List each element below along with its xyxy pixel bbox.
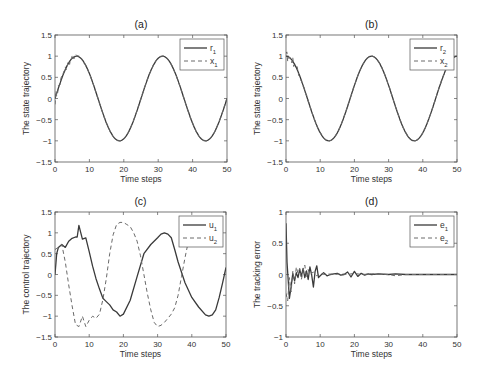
y-axis-label: The control trajectory (21, 234, 31, 315)
y-tick-label: 0 (279, 95, 284, 104)
y-axis-label: The tracking error (252, 241, 262, 308)
subplot-b: (b)Time stepsThe state trajectory0102030… (252, 18, 462, 184)
y-tick-label: 0.5 (272, 73, 284, 82)
subplot-c: (c)Time stepsThe control trajectory01020… (21, 195, 231, 359)
y-tick-label: −1.5 (36, 333, 52, 342)
x-tick-label: 0 (284, 165, 289, 174)
y-tick-label: −1.5 (267, 158, 283, 167)
series-line-e2 (286, 265, 457, 301)
y-tick-label: −1.5 (36, 158, 52, 167)
y-tick-label: 0.5 (272, 239, 284, 248)
x-tick-label: 40 (187, 340, 196, 349)
y-tick-label: −1 (274, 137, 284, 146)
x-axis-label: Time steps (120, 349, 161, 359)
y-axis-label: The state trajectory (252, 61, 262, 135)
y-tick-label: 1.5 (41, 31, 53, 40)
y-tick-label: 0 (48, 95, 53, 104)
x-tick-label: 20 (119, 340, 128, 349)
y-tick-label: 0.5 (41, 250, 53, 259)
x-tick-label: 50 (222, 340, 231, 349)
y-tick-label: −0.5 (36, 116, 52, 125)
subplot-title: (d) (365, 195, 378, 207)
y-tick-label: −1 (43, 137, 53, 146)
x-axis-label: Time steps (120, 174, 161, 184)
subplot-title: (a) (135, 18, 148, 30)
y-tick-label: −1 (43, 312, 53, 321)
subplot-title: (b) (365, 18, 378, 30)
x-tick-label: 0 (53, 165, 58, 174)
y-tick-label: 0 (48, 271, 53, 280)
x-axis-label: Time steps (351, 349, 392, 359)
subplot-d: (d)Time stepsThe tracking error010203040… (252, 195, 462, 359)
legend: u1u2 (179, 216, 223, 247)
x-tick-label: 30 (154, 165, 163, 174)
y-tick-label: 0 (279, 271, 284, 280)
subplot-title: (c) (134, 195, 146, 207)
x-tick-label: 40 (418, 165, 427, 174)
legend: r2x2 (410, 39, 454, 70)
y-tick-label: 1 (279, 208, 284, 217)
x-tick-label: 0 (53, 340, 58, 349)
x-tick-label: 0 (284, 340, 289, 349)
x-tick-label: 10 (85, 340, 94, 349)
x-tick-label: 20 (350, 165, 359, 174)
x-tick-label: 20 (350, 340, 359, 349)
x-tick-label: 30 (384, 340, 393, 349)
x-tick-label: 50 (453, 165, 462, 174)
x-tick-label: 40 (188, 165, 197, 174)
y-axis-label: The state trajectory (21, 61, 31, 135)
x-axis-label: Time steps (351, 174, 392, 184)
x-tick-label: 10 (316, 165, 325, 174)
y-tick-label: −0.5 (36, 291, 52, 300)
y-tick-label: 0.5 (41, 73, 53, 82)
x-tick-label: 50 (223, 165, 232, 174)
y-tick-label: 1 (279, 52, 284, 61)
x-tick-label: 50 (453, 340, 462, 349)
y-tick-label: 1 (48, 229, 53, 238)
legend: r1x1 (180, 39, 224, 70)
x-tick-label: 20 (119, 165, 128, 174)
y-tick-label: −0.5 (267, 116, 283, 125)
y-tick-label: 1.5 (272, 31, 284, 40)
legend: e1e2 (410, 216, 454, 247)
x-tick-label: 30 (153, 340, 162, 349)
x-tick-label: 10 (85, 165, 94, 174)
x-tick-label: 10 (316, 340, 325, 349)
y-tick-label: 1 (48, 52, 53, 61)
x-tick-label: 40 (418, 340, 427, 349)
y-tick-label: 1.5 (41, 208, 53, 217)
y-tick-label: −0.5 (267, 302, 283, 311)
figure: (a)Time stepsThe state trajectory0102030… (0, 0, 484, 379)
x-tick-label: 30 (384, 165, 393, 174)
subplot-a: (a)Time stepsThe state trajectory0102030… (21, 18, 232, 184)
y-tick-label: −1 (274, 333, 284, 342)
